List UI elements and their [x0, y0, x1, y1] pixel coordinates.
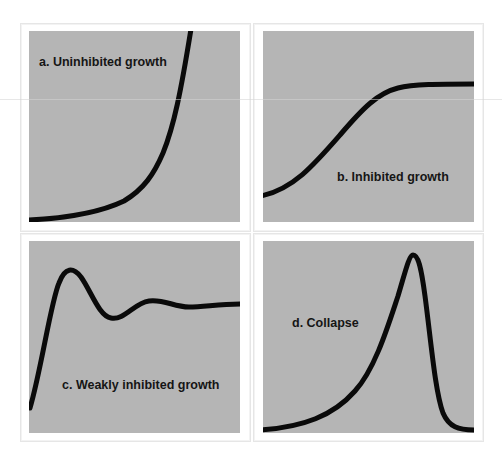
damped-oscillation-curve: [29, 241, 240, 433]
panel-label-d: d. Collapse: [292, 317, 359, 330]
panel-label-a: a. Uninhibited growth: [39, 56, 167, 69]
collapse-curve: [263, 241, 474, 433]
panel-collapse: d. Collapse: [263, 241, 474, 433]
logistic-curve: [263, 31, 474, 222]
panel-uninhibited-growth: a. Uninhibited growth: [29, 31, 240, 222]
panel-inhibited-growth: b. Inhibited growth: [263, 31, 474, 222]
panel-label-c: c. Weakly inhibited growth: [62, 379, 219, 392]
scan-artifact-line: [0, 99, 502, 100]
panel-label-b: b. Inhibited growth: [337, 171, 449, 184]
panel-weakly-inhibited-growth: c. Weakly inhibited growth: [29, 241, 240, 433]
